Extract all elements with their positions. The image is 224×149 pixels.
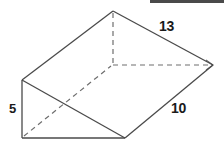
triangular-prism-drawing <box>0 0 224 149</box>
dimension-label-slant-edge: 13 <box>159 19 174 33</box>
dimension-label-height-edge: 5 <box>9 102 16 115</box>
edge-bottomfront-to-right <box>125 65 213 138</box>
solid-edges-group <box>22 11 213 138</box>
dimension-label-base-edge: 10 <box>171 101 186 115</box>
hidden-edges-group <box>24 13 210 136</box>
geometry-figure-container: 13 10 5 <box>0 0 224 149</box>
hidden-edge-bottomleft-to-center <box>24 66 111 136</box>
edge-topleft-to-bottomfront <box>22 80 125 138</box>
edge-apex-to-topleft <box>22 11 113 80</box>
